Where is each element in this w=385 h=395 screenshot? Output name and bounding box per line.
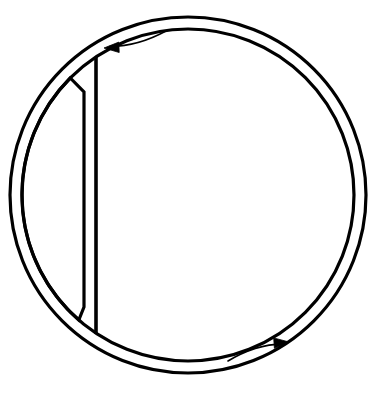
circular-band-diagram [0,0,385,395]
outer-circle-path [10,17,366,373]
diagram-canvas [0,0,385,395]
crescent-sliver-path [22,78,84,320]
